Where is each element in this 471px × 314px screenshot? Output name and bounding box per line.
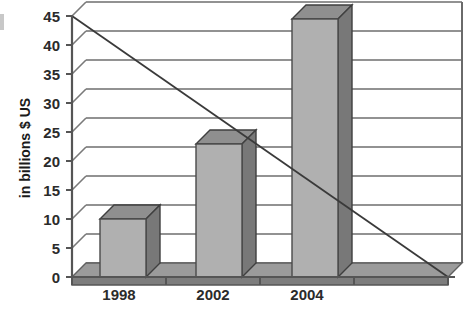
bar-2002-front-face [196,144,242,277]
bar-1998-front-face [100,219,146,277]
bar-chart-figure: 45 40 35 30 25 20 15 10 5 0 1998 2002 20… [0,0,471,314]
chart-canvas: 45 40 35 30 25 20 15 10 5 0 1998 2002 20… [0,0,471,314]
bar-2004-side-face [338,5,352,277]
bar-2002-side-face [242,130,256,277]
y-tick-label-20: 20 [43,153,60,170]
y-tick-label-30: 30 [43,95,60,112]
bar-1998[interactable] [100,205,160,277]
y-tick-label-5: 5 [52,240,60,257]
y-tick-label-35: 35 [43,66,60,83]
x-category-label-2002: 2002 [196,286,229,303]
y-tick-label-45: 45 [43,8,60,25]
y-tick-label-0: 0 [52,269,60,286]
x-axis-labels: 1998 2002 2004 [102,286,324,303]
bar-2004-front-face [292,19,338,277]
y-tick-label-15: 15 [43,182,60,199]
y-tick-label-25: 25 [43,124,60,141]
bar-2004[interactable] [292,5,352,277]
scan-artifact-mark [0,14,4,30]
y-tick-label-10: 10 [43,211,60,228]
y-tick-label-40: 40 [43,37,60,54]
bar-2002[interactable] [196,130,256,277]
x-category-label-1998: 1998 [102,286,135,303]
y-axis-title: in billions $ US [17,98,33,198]
x-category-label-2004: 2004 [290,286,324,303]
